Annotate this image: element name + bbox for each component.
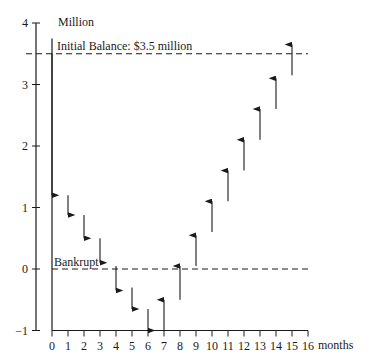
x-tick-label: 3 xyxy=(97,339,103,353)
x-tick-label: 14 xyxy=(270,339,282,353)
x-tick-label: 11 xyxy=(222,339,234,353)
bankrupt-label: Bankrupt xyxy=(54,255,99,269)
x-tick-label: 15 xyxy=(286,339,298,353)
x-tick-label: 6 xyxy=(145,339,151,353)
x-tick-label: 5 xyxy=(129,339,135,353)
x-axis: 012345678910111213141516 xyxy=(49,331,314,353)
x-tick-label: 9 xyxy=(193,339,199,353)
reference-lines xyxy=(26,54,308,269)
x-tick-label: 2 xyxy=(81,339,87,353)
y-tick-label: 4 xyxy=(22,16,28,30)
y-tick-label: 1 xyxy=(22,201,28,215)
y-tick-label: 2 xyxy=(22,139,28,153)
x-tick-label: 0 xyxy=(49,339,55,353)
x-tick-label: 12 xyxy=(238,339,250,353)
x-tick-label: 1 xyxy=(65,339,71,353)
x-axis-label: months xyxy=(318,338,354,352)
x-tick-label: 16 xyxy=(302,339,314,353)
x-tick-label: 7 xyxy=(161,339,167,353)
y-tick-label: 3 xyxy=(22,78,28,92)
x-tick-label: 13 xyxy=(254,339,266,353)
y-tick-label: 0 xyxy=(22,262,28,276)
x-tick-label: 10 xyxy=(206,339,218,353)
y-axis-label: Million xyxy=(58,15,94,29)
cashflow-chart: 43210−1 012345678910111213141516 Million… xyxy=(0,0,369,364)
x-tick-label: 4 xyxy=(113,339,119,353)
y-tick-label: −1 xyxy=(15,324,28,338)
cashflow-arrows xyxy=(52,45,292,331)
y-axis: 43210−1 xyxy=(15,16,52,338)
initial-balance-label: Initial Balance: $3.5 million xyxy=(57,39,192,53)
x-tick-label: 8 xyxy=(177,339,183,353)
